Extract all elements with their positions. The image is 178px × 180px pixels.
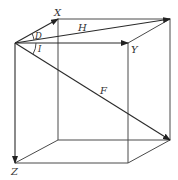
f-vector-arrow (15, 43, 170, 140)
cube-diagram: X Y Z H F D I (0, 0, 178, 180)
bottom-left-connector (15, 140, 58, 163)
label-angle-d: D (34, 31, 42, 41)
label-angle-i: I (37, 44, 42, 54)
label-x: X (53, 7, 62, 18)
label-f: F (99, 85, 108, 96)
label-h: H (77, 22, 87, 33)
angle-i-arc (33, 43, 36, 54)
label-y: Y (131, 44, 139, 55)
angle-d-arc (32, 34, 34, 41)
label-z: Z (10, 166, 19, 177)
bottom-right-connector (128, 140, 170, 163)
